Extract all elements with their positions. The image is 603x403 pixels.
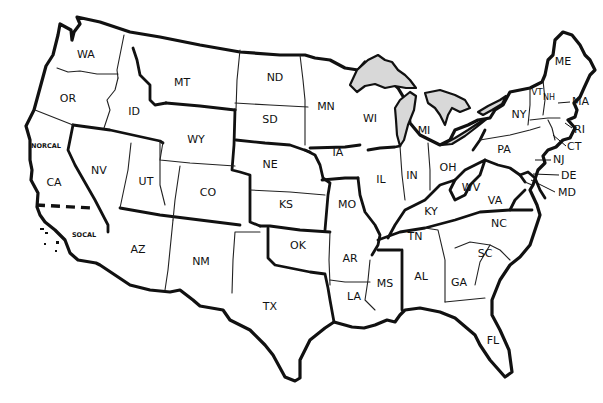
state-label-ga: GA	[451, 276, 468, 289]
state-label-mi: MI	[418, 124, 431, 137]
state-label-me: ME	[555, 55, 571, 68]
state-label-wy: WY	[187, 133, 205, 146]
national-outline	[26, 17, 595, 381]
state-label-ar: AR	[342, 252, 358, 265]
state-label-fl: FL	[487, 334, 500, 347]
state-label-ky: KY	[424, 205, 438, 218]
state-label-ne: NE	[262, 158, 277, 171]
state-label-nd: ND	[267, 71, 284, 84]
us-states-map: WA OR ID MT WY NV UT CO CA AZ NM ND SD N…	[0, 0, 603, 403]
state-label-tx: TX	[262, 300, 278, 313]
state-label-nh: NH	[543, 93, 555, 102]
state-label-vt: VT	[531, 87, 543, 97]
state-label-ks: KS	[279, 198, 293, 211]
state-label-pa: PA	[497, 143, 511, 156]
state-label-ut: UT	[139, 175, 154, 188]
state-label-md: MD	[558, 186, 576, 199]
state-label-ms: MS	[377, 277, 393, 290]
state-label-wa: WA	[77, 48, 95, 61]
state-label-ny: NY	[512, 108, 527, 121]
state-label-ct: CT	[567, 140, 582, 153]
state-label-ia: IA	[333, 146, 344, 159]
state-label-de: DE	[561, 169, 576, 182]
state-label-oh: OH	[440, 161, 457, 174]
state-label-nj: NJ	[553, 153, 564, 166]
lake-huron	[425, 90, 470, 125]
state-label-mo: MO	[338, 198, 356, 211]
state-label-ri: RI	[574, 123, 585, 136]
state-label-in: IN	[406, 169, 417, 182]
state-label-wi: WI	[363, 112, 377, 125]
state-label-mt: MT	[174, 76, 190, 89]
state-label-co: CO	[200, 186, 217, 199]
state-label-ca: CA	[46, 176, 62, 189]
state-label-az: AZ	[130, 243, 146, 256]
state-label-ok: OK	[290, 239, 307, 252]
state-label-al: AL	[414, 270, 429, 283]
state-label-il: IL	[376, 173, 386, 186]
state-label-mn: MN	[317, 100, 335, 113]
state-label-id: ID	[128, 105, 140, 118]
region-label-norcal: NORCAL	[31, 142, 61, 150]
lake-superior	[350, 55, 416, 92]
state-label-ma: MA	[572, 95, 589, 108]
state-label-or: OR	[60, 92, 77, 105]
state-label-nm: NM	[192, 255, 210, 268]
state-label-wv: WV	[462, 181, 481, 194]
state-label-sc: SC	[478, 247, 493, 260]
state-label-va: VA	[488, 194, 503, 207]
state-label-la: LA	[347, 290, 361, 303]
state-label-sd: SD	[262, 113, 277, 126]
state-label-nc: NC	[491, 217, 507, 230]
state-label-tn: TN	[407, 230, 423, 243]
region-label-socal: SOCAL	[72, 231, 96, 239]
state-label-nv: NV	[91, 164, 107, 177]
